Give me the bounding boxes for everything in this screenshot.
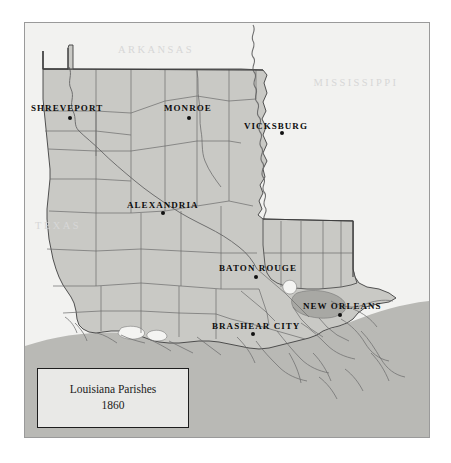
state-label-arkansas: ARKANSAS [118,44,194,55]
city-dot-brashear-city [251,332,255,336]
louisiana-parishes-map: ARKANSAS MISSISSIPPI TEXAS SHREVEPORT MO… [0,0,451,463]
state-label-mississippi: MISSISSIPPI [314,77,399,88]
city-label-baton-rouge: BATON ROUGE [219,263,297,273]
city-dot-new-orleans [338,313,342,317]
city-dot-alexandria [161,211,165,215]
city-label-vicksburg: VICKSBURG [244,121,308,131]
legend-title: Louisiana Parishes [70,382,157,398]
florida-parishes-block [263,219,357,289]
city-label-alexandria: ALEXANDRIA [127,200,199,210]
state-label-texas: TEXAS [35,220,81,231]
city-dot-vicksburg [280,131,284,135]
city-dot-shreveport [68,116,72,120]
city-dot-baton-rouge [254,275,258,279]
false-river-lake [283,280,297,294]
city-label-new-orleans: NEW ORLEANS [303,301,382,311]
map-legend: Louisiana Parishes 1860 [37,368,189,428]
white-lake [118,326,145,339]
city-label-monroe: MONROE [164,103,212,113]
city-label-shreveport: SHREVEPORT [31,103,103,113]
legend-year: 1860 [102,398,125,414]
city-label-brashear-city: BRASHEAR CITY [212,321,300,331]
city-dot-monroe [187,116,191,120]
